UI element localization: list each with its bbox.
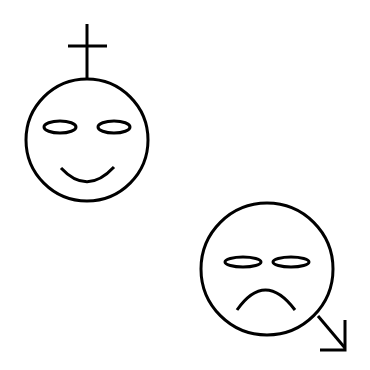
happy-face bbox=[26, 24, 148, 201]
arrow-shaft-icon bbox=[318, 316, 345, 348]
happy-face-smile bbox=[61, 167, 114, 182]
happy-face-right-eye bbox=[98, 121, 130, 133]
sad-face-left-eye bbox=[225, 257, 261, 267]
sad-face-frown bbox=[237, 290, 295, 310]
sad-face-right-eye bbox=[273, 257, 309, 267]
sad-face-head bbox=[201, 203, 333, 335]
happy-face-left-eye bbox=[44, 121, 76, 133]
diagram-canvas bbox=[0, 0, 370, 370]
sad-face bbox=[201, 203, 345, 350]
